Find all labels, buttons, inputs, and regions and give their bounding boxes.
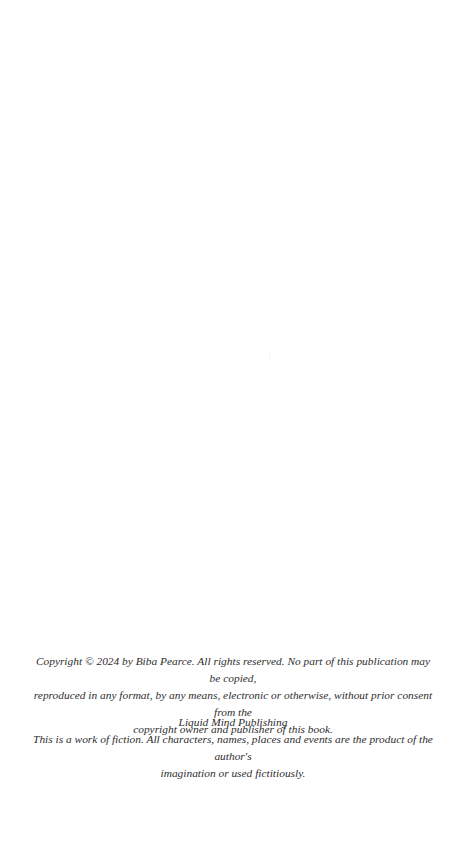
disclaimer-line: This is a work of fiction. All character… bbox=[30, 731, 436, 765]
publisher-name: Liquid Mind Publishing bbox=[30, 714, 436, 731]
copyright-page: Copyright © 2024 by Biba Pearce. All rig… bbox=[0, 0, 466, 859]
faint-artifact bbox=[269, 352, 270, 359]
fiction-disclaimer: This is a work of fiction. All character… bbox=[30, 731, 436, 782]
copyright-line: Copyright © 2024 by Biba Pearce. All rig… bbox=[30, 653, 436, 687]
publisher-label: Liquid Mind Publishing bbox=[30, 714, 436, 731]
disclaimer-line: imagination or used fictitiously. bbox=[30, 765, 436, 782]
